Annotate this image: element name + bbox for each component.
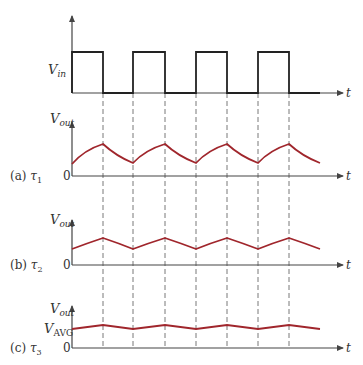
input-panel: Vin t bbox=[48, 16, 351, 100]
panel-c-tau3: Vout VAVG 0 t (c) τ3 bbox=[10, 301, 351, 357]
panel-c-vavg-label: VAVG bbox=[44, 321, 73, 338]
panel-b-caption: (b) τ2 bbox=[10, 258, 43, 274]
panel-b-tau2: Vout 0 t (b) τ2 bbox=[10, 212, 351, 274]
vin-label: Vin bbox=[48, 62, 66, 79]
panel-c-zero: 0 bbox=[63, 341, 71, 355]
panel-b-t-label: t bbox=[346, 258, 351, 272]
panel-a-t-label: t bbox=[346, 169, 351, 183]
panel-a-vout-label: Vout bbox=[50, 111, 75, 128]
input-square-wave bbox=[72, 52, 320, 93]
rc-integrator-waveform-diagram: Vin t Vout 0 t (a) τ1 Vout 0 t (b) τ2 bbox=[0, 0, 363, 365]
panel-c-t-label: t bbox=[346, 341, 351, 355]
panel-b-zero: 0 bbox=[63, 258, 71, 272]
panel-c-caption: (c) τ3 bbox=[10, 341, 42, 357]
panel-c-vout-label: Vout bbox=[50, 301, 75, 318]
panel-a-tau1: Vout 0 t (a) τ1 bbox=[10, 111, 351, 185]
dashed-guides bbox=[103, 93, 289, 348]
vin-t-label: t bbox=[346, 86, 351, 100]
panel-a-zero: 0 bbox=[63, 169, 71, 183]
panel-b-vout-label: Vout bbox=[50, 212, 75, 229]
panel-a-caption: (a) τ1 bbox=[10, 169, 42, 185]
